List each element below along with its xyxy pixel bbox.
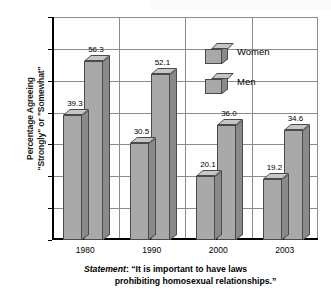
chart-figure: Percentage Agreeing "Strongly" or "Somew… xyxy=(0,0,331,295)
plot-area: 39.356.330.552.120.136.019.234.6 xyxy=(52,17,318,240)
caption-quote-line-1: “It is important to have laws xyxy=(131,264,247,274)
scan-artifact-strip xyxy=(150,0,331,10)
x-axis-tick-label-2000: 2000 xyxy=(188,246,248,255)
bar-value-label: 20.1 xyxy=(200,161,216,169)
caption-line-1: Statement: “It is important to have laws xyxy=(0,264,331,276)
bar-women-1980: 39.3 xyxy=(63,115,82,240)
bar-value-label: 39.3 xyxy=(67,100,83,108)
bar-women-2000: 20.1 xyxy=(196,176,215,240)
bar-side-face xyxy=(282,173,289,240)
bar-value-label: 19.2 xyxy=(267,164,283,172)
y-axis-title-line-2: "Strongly" or "Somewhat" xyxy=(35,34,46,204)
bar-front-face xyxy=(130,143,149,240)
bar-front-face xyxy=(63,115,82,240)
caption-separator: : xyxy=(126,264,129,274)
x-axis-tick-label-1980: 1980 xyxy=(55,246,115,255)
legend-cube-face xyxy=(205,79,222,94)
caption-line-2: prohibiting homosexual relationships.” xyxy=(0,276,331,288)
caption-quote-line-2: prohibiting homosexual relationships.” xyxy=(115,276,277,286)
legend-cube-face xyxy=(205,49,222,64)
y-axis-title: Percentage Agreeing "Strongly" or "Somew… xyxy=(25,34,46,204)
bar-side-face xyxy=(236,120,243,240)
bar-value-label: 36.0 xyxy=(221,110,237,118)
x-axis-tick-label-2003: 2003 xyxy=(255,246,315,255)
bar-side-face xyxy=(149,137,156,240)
legend-label: Men xyxy=(237,76,255,87)
bar-value-label: 34.6 xyxy=(288,115,304,123)
bar-value-label: 52.1 xyxy=(155,59,171,67)
cube-3d-icon xyxy=(205,74,223,90)
bar-front-face xyxy=(196,176,215,240)
bar-side-face xyxy=(170,69,177,240)
group-separator-line xyxy=(119,17,120,240)
y-axis-line xyxy=(52,17,54,240)
legend-label: Women xyxy=(237,46,270,57)
caption-statement-label: Statement xyxy=(84,264,126,274)
y-axis-tick-mark xyxy=(48,240,52,241)
bar-side-face xyxy=(103,55,110,240)
bar-women-2003: 19.2 xyxy=(263,179,282,240)
plot-frame-right xyxy=(317,17,318,240)
x-axis-tick-label-1990: 1990 xyxy=(122,246,182,255)
bar-side-face xyxy=(303,124,310,240)
cube-3d-icon xyxy=(205,44,223,60)
bar-value-label: 30.5 xyxy=(134,128,150,136)
group-separator-line xyxy=(185,17,186,240)
bar-side-face xyxy=(215,170,222,240)
bar-side-face xyxy=(82,109,89,240)
chart-caption: Statement: “It is important to have laws… xyxy=(0,264,331,287)
bar-value-label: 56.3 xyxy=(88,46,104,54)
y-axis-title-line-1: Percentage Agreeing xyxy=(25,34,36,204)
bar-front-face xyxy=(263,179,282,240)
bar-women-1990: 30.5 xyxy=(130,143,149,240)
